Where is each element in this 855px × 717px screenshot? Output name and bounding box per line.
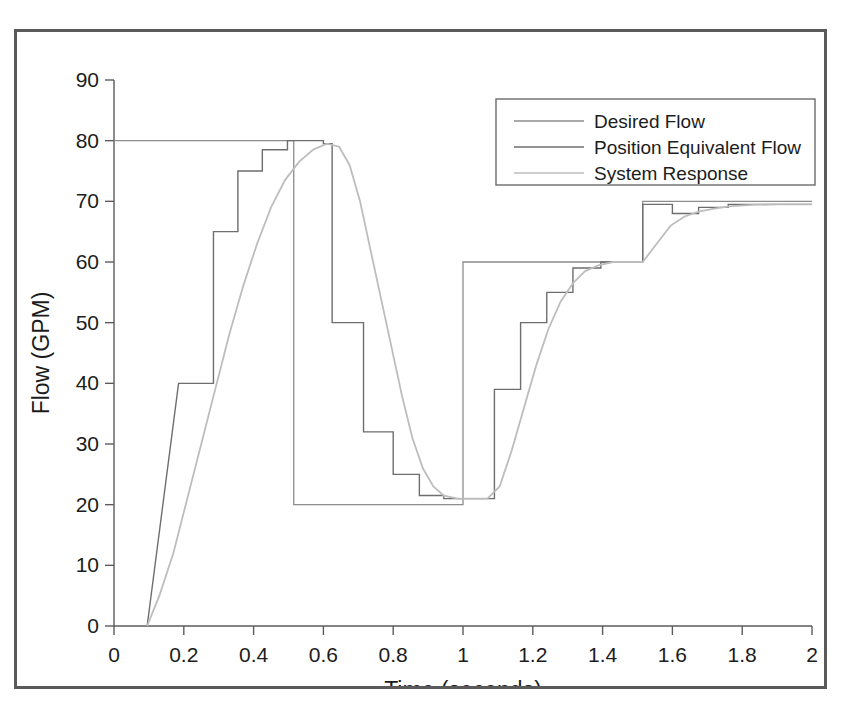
y-tick-label: 10 xyxy=(76,553,99,576)
figure-frame: 010203040506070809000.20.40.60.811.21.41… xyxy=(14,29,827,689)
x-tick-label: 1.6 xyxy=(658,643,687,666)
y-tick-label: 20 xyxy=(76,493,99,516)
x-tick-label: 0.4 xyxy=(239,643,269,666)
y-tick-label: 60 xyxy=(76,250,99,273)
legend-label-1: Desired Flow xyxy=(594,111,705,132)
y-tick-label: 90 xyxy=(76,68,99,91)
x-tick-label: 1.4 xyxy=(588,643,618,666)
x-tick-label: 0.6 xyxy=(309,643,338,666)
x-axis-title: Time (seconds) xyxy=(384,677,542,686)
y-tick-label: 40 xyxy=(76,371,99,394)
x-tick-label: 0.2 xyxy=(169,643,198,666)
x-tick-label: 1.2 xyxy=(518,643,547,666)
y-tick-label: 80 xyxy=(76,129,99,152)
series-line-position-equivalent-flow xyxy=(147,141,812,626)
y-tick-label: 70 xyxy=(76,189,99,212)
y-tick-label: 0 xyxy=(87,614,99,637)
x-tick-label: 2 xyxy=(806,643,818,666)
y-tick-label: 30 xyxy=(76,432,99,455)
y-axis-title: Flow (GPM) xyxy=(28,292,54,415)
x-tick-label: 1 xyxy=(457,643,469,666)
legend-label-3: System Response xyxy=(594,163,748,184)
x-tick-label: 1.8 xyxy=(728,643,757,666)
series-line-desired-flow xyxy=(114,141,812,505)
x-tick-label: 0 xyxy=(108,643,120,666)
series-line-system-response xyxy=(147,144,812,626)
legend-label-2: Position Equivalent Flow xyxy=(594,137,801,158)
chart-plot: 010203040506070809000.20.40.60.811.21.41… xyxy=(17,32,824,686)
x-tick-label: 0.8 xyxy=(379,643,408,666)
y-tick-label: 50 xyxy=(76,311,99,334)
